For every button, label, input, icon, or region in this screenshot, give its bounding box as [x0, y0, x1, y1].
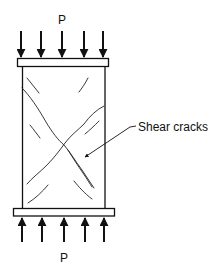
- bottom-bearing-plate: [14, 209, 115, 217]
- top-load-label: P: [58, 13, 66, 27]
- column-shear-failure-diagram: P Shear cracks: [0, 0, 215, 270]
- bottom-load-label: P: [60, 251, 68, 265]
- shear-cracks-label: Shear cracks: [138, 120, 208, 134]
- bottom-load-arrows: [22, 218, 104, 242]
- top-bearing-plate: [18, 59, 109, 67]
- annotation-leader: [85, 126, 136, 157]
- top-load-arrows: [21, 31, 103, 57]
- shear-cracks: [22, 78, 104, 203]
